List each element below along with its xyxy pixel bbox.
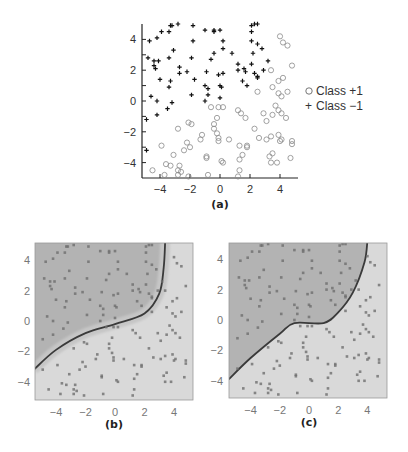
class-neg-point (221, 39, 225, 43)
sample-point (102, 393, 105, 396)
y-tick-label: 4 (24, 254, 30, 266)
x-tick-label: 2 (335, 404, 341, 416)
sample-point (344, 262, 347, 265)
sample-point (306, 355, 309, 358)
legend-class-pos: Class +1 (316, 84, 363, 98)
sample-point (176, 297, 179, 300)
sample-point (102, 308, 105, 311)
class-neg-point (260, 46, 264, 50)
sample-point (308, 316, 311, 319)
sample-point (111, 336, 114, 339)
sample-point (319, 272, 322, 275)
class-neg-point (206, 93, 210, 97)
class-pos-point (270, 112, 275, 117)
panel-a-scatter: −4−2024 −4−2024 (a) (123, 22, 298, 211)
sample-point (281, 244, 284, 247)
x-tick-label: −4 (154, 183, 167, 195)
sample-point (280, 313, 283, 316)
sample-point (65, 384, 68, 387)
sample-point (357, 354, 360, 357)
y-tick-label: 0 (217, 314, 223, 326)
sample-point (108, 250, 111, 253)
sample-point (108, 347, 111, 350)
class-pos-point (277, 34, 282, 39)
panel-b-x-ticks: −4−2024 (50, 406, 177, 418)
sample-point (49, 280, 52, 283)
sample-point (133, 364, 136, 367)
sample-point (67, 321, 70, 324)
sample-point (151, 297, 154, 300)
sample-point (108, 273, 111, 276)
sample-point (185, 285, 188, 288)
class-pos-point (288, 155, 293, 160)
x-tick-label: −2 (274, 404, 287, 416)
class-pos-point (205, 172, 210, 177)
sample-point (114, 317, 117, 320)
y-tick-label: −4 (210, 375, 223, 387)
panel-c-x-ticks: −4−2024 (244, 404, 370, 416)
sample-point (65, 300, 68, 303)
class-pos-point (240, 152, 245, 157)
sample-point (52, 257, 55, 260)
sample-point (86, 277, 89, 280)
sample-point (174, 358, 177, 361)
sample-point (327, 363, 330, 366)
sample-point (309, 305, 312, 308)
sample-point (254, 392, 257, 395)
sample-point (328, 331, 331, 334)
class-neg-point (203, 83, 207, 87)
class-neg-point (144, 148, 148, 152)
class-neg-point (236, 68, 240, 72)
class-pos-point (198, 137, 203, 142)
sample-point (83, 341, 86, 344)
sample-point (183, 376, 186, 379)
class-pos-point (238, 111, 243, 116)
sample-point (74, 292, 77, 295)
sample-point (148, 292, 151, 295)
sample-point (290, 352, 293, 355)
sample-point (277, 393, 280, 396)
class-pos-point (277, 138, 282, 143)
sample-point (338, 250, 341, 253)
class-pos-point (220, 160, 225, 165)
sample-point (112, 359, 115, 362)
sample-point (334, 364, 337, 367)
sample-point (61, 382, 64, 385)
sample-point (64, 251, 67, 254)
sample-point (279, 364, 282, 367)
sample-point (311, 325, 314, 328)
class-pos-point (283, 115, 288, 120)
sample-point (96, 353, 99, 356)
y-tick-label: −2 (210, 344, 223, 356)
sample-point (155, 268, 158, 271)
sample-point (123, 358, 126, 361)
x-tick-label: 0 (306, 404, 312, 416)
sample-point (75, 390, 78, 393)
sample-point (260, 383, 263, 386)
sample-point (137, 288, 140, 291)
sample-point (171, 353, 174, 356)
sample-point (376, 375, 379, 378)
x-tick-label: −2 (79, 406, 92, 418)
sample-point (350, 288, 353, 291)
panel-b-decision-regions: −4−2024 −4−2024 (b) (17, 238, 193, 431)
class-pos-point (279, 94, 284, 99)
panel-a-caption: (a) (211, 198, 228, 211)
sample-point (108, 343, 111, 346)
sample-point (87, 260, 90, 263)
sample-point (353, 338, 356, 341)
class-pos-point (186, 120, 191, 125)
sample-point (280, 276, 283, 279)
sample-point (156, 332, 159, 335)
sample-point (72, 347, 75, 350)
sample-point (257, 326, 260, 329)
sample-point (306, 293, 309, 296)
sample-point (131, 394, 134, 397)
class-pos-point (276, 91, 281, 96)
sample-point (112, 294, 115, 297)
sample-point (126, 273, 129, 276)
sample-point (368, 357, 371, 360)
x-tick-label: 0 (112, 406, 118, 418)
sample-point (64, 277, 67, 280)
class-neg-point (255, 42, 259, 46)
